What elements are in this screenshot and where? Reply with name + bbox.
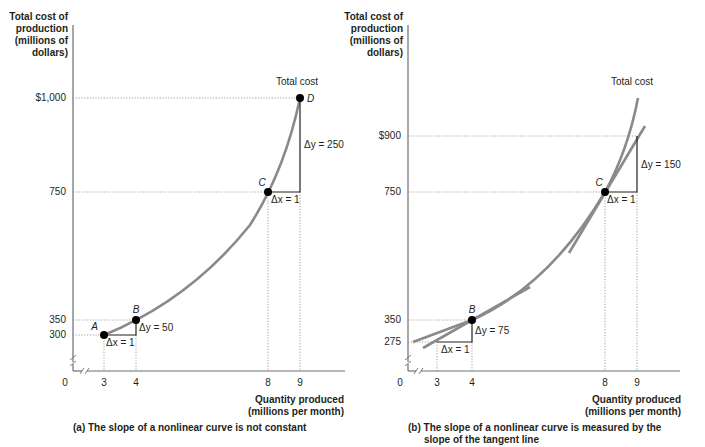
panel-b-caption-line1: (b) The slope of a nonlinear curve is me…	[408, 422, 662, 433]
figure-canvas: Total cost of production (millions of do…	[0, 0, 705, 447]
x-tick-3: 3	[434, 377, 440, 388]
y-axis-label-line3: (millions of	[350, 35, 404, 46]
y-axis-label-line2: production	[351, 23, 403, 34]
delta-y-b: Δy = 75	[475, 325, 510, 336]
origin-label: 0	[62, 377, 68, 388]
y-axis-label-line2: production	[16, 23, 68, 34]
curve-label: Total cost	[276, 76, 318, 87]
x-tick-8: 8	[602, 377, 608, 388]
point-b-label: B	[133, 304, 140, 315]
delta-x-ab: Δx = 1	[106, 337, 135, 348]
point-b-label: B	[469, 304, 476, 315]
guide-lines	[73, 98, 300, 371]
y-axis-label-line1: Total cost of	[344, 11, 403, 22]
y-tick-750: 750	[384, 186, 401, 197]
y-tick-1000: $1,000	[35, 92, 66, 103]
total-cost-curve	[413, 98, 638, 342]
x-tick-4: 4	[469, 377, 475, 388]
x-tick-3: 3	[101, 377, 107, 388]
delta-x-c: Δx = 1	[607, 194, 636, 205]
origin-label: 0	[397, 377, 403, 388]
panel-b-caption-line2: slope of the tangent line	[424, 434, 539, 445]
x-axis-label-line2: (millions per month)	[248, 406, 344, 417]
x-tick-8: 8	[265, 377, 271, 388]
x-tick-9: 9	[297, 377, 303, 388]
point-c-label: C	[258, 177, 266, 188]
delta-x-cd: Δx = 1	[271, 194, 300, 205]
y-tick-275: 275	[384, 336, 401, 347]
delta-y-c: Δy = 150	[641, 159, 681, 170]
y-axis-label-line4: dollars)	[367, 47, 403, 58]
y-tick-350: 350	[49, 314, 66, 325]
point-b	[468, 316, 476, 324]
x-tick-4: 4	[133, 377, 139, 388]
panel-a-caption: (a) The slope of a nonlinear curve is no…	[73, 422, 307, 433]
total-cost-curve	[104, 98, 300, 335]
y-tick-750: 750	[49, 186, 66, 197]
point-c	[264, 188, 272, 196]
delta-x-b: Δx = 1	[441, 344, 470, 355]
x-tick-9: 9	[634, 377, 640, 388]
point-a-label: A	[90, 321, 98, 332]
point-d-label: D	[307, 93, 314, 104]
point-c-label: C	[595, 177, 603, 188]
panel-b: Total cost of production (millions of do…	[344, 11, 681, 445]
slope-triangles	[104, 98, 300, 335]
panel-a: Total cost of production (millions of do…	[9, 11, 345, 433]
point-b	[132, 316, 140, 324]
delta-y-ab: Δy = 50	[139, 322, 174, 333]
slope-triangles	[437, 136, 637, 342]
y-axis-label-line1: Total cost of	[9, 11, 68, 22]
x-axis-label-line1: Quantity produced	[255, 394, 344, 405]
y-axis-label-line4: dollars)	[32, 47, 68, 58]
point-d	[296, 94, 304, 102]
delta-y-cd: Δy = 250	[304, 139, 344, 150]
y-axis-label-line3: (millions of	[15, 35, 69, 46]
x-axis-label-line1: Quantity produced	[592, 394, 681, 405]
point-c	[601, 188, 609, 196]
y-tick-300: 300	[49, 329, 66, 340]
y-tick-350: 350	[384, 314, 401, 325]
curve-label: Total cost	[611, 76, 653, 87]
y-tick-900: $900	[379, 130, 402, 141]
x-axis-label-line2: (millions per month)	[585, 406, 681, 417]
point-a	[100, 331, 108, 339]
